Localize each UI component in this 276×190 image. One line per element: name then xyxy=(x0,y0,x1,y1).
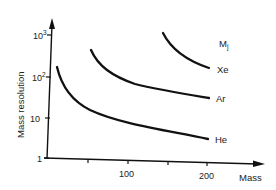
x-axis-label: Mass xyxy=(239,172,262,183)
y-axis-arrow-icon xyxy=(49,18,55,29)
y-axis-label: Mass resolution xyxy=(15,71,26,138)
x-axis-arrow-icon xyxy=(253,161,265,168)
series-label-mj: Mj xyxy=(219,38,229,51)
curve-mj xyxy=(163,33,209,68)
mass-resolution-chart: 1 10 102 103 100 200 Mass Mass resolutio… xyxy=(0,0,276,190)
y-tick-label-1000: 103 xyxy=(33,29,47,41)
series-label-xe: Xe xyxy=(217,64,229,75)
curve-ar xyxy=(91,50,209,98)
y-tick-label-10: 10 xyxy=(30,114,40,124)
y-tick-label-100: 102 xyxy=(32,71,46,83)
series-label-ar: Ar xyxy=(216,93,226,104)
series-label-he: He xyxy=(215,134,227,145)
x-tick-label-200: 200 xyxy=(199,171,214,181)
curve-he xyxy=(57,67,208,139)
x-tick-label-100: 100 xyxy=(119,169,134,179)
y-tick-label-1: 1 xyxy=(37,154,42,164)
y-axis xyxy=(47,24,52,159)
x-axis xyxy=(44,158,258,164)
